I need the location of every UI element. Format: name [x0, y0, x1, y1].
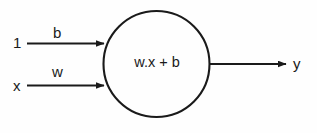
bias-weight-label: b: [53, 25, 61, 40]
neuron-diagram-canvas: 1 x b w w.x + b y: [0, 0, 317, 133]
output-label: y: [293, 56, 301, 71]
bias-input-label: 1: [13, 35, 21, 50]
signal-weight-label: w: [52, 64, 63, 79]
signal-input-label: x: [13, 78, 21, 93]
neuron-body-label: w.x + b: [105, 55, 209, 70]
